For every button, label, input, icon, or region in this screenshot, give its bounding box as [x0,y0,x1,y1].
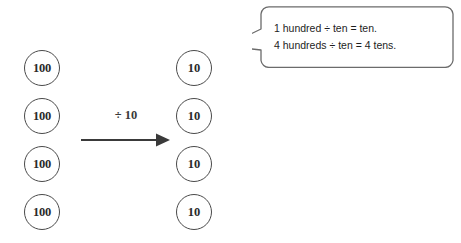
disk-hundred-1: 100 [24,50,60,86]
disk-hundred-3: 100 [24,146,60,182]
disk-hundred-4-value: 100 [33,206,51,219]
disk-hundred-4: 100 [24,194,60,230]
disk-ten-1: 10 [176,50,212,86]
speech-bubble-text: 1 hundred ÷ ten = ten. 4 hundreds ÷ ten … [274,14,446,60]
callout-line-1: 1 hundred ÷ ten = ten. [274,23,446,35]
disk-ten-1-value: 10 [188,62,201,75]
disk-ten-3: 10 [176,146,212,182]
disk-ten-2: 10 [176,98,212,134]
disk-ten-4: 10 [176,194,212,230]
right-arrow-icon [80,128,172,150]
disk-hundred-1-value: 100 [33,62,51,75]
operation-label: ÷ 10 [94,108,158,123]
place-value-division-diagram: 100 100 100 100 ÷ 10 10 10 10 10 1 hundr… [0,0,461,243]
disk-hundred-2: 100 [24,98,60,134]
disk-ten-4-value: 10 [188,206,201,219]
disk-ten-3-value: 10 [188,158,201,171]
division-arrow-group: ÷ 10 [80,108,172,152]
disk-ten-2-value: 10 [188,110,201,123]
disk-hundred-2-value: 100 [33,110,51,123]
speech-bubble: 1 hundred ÷ ten = ten. 4 hundreds ÷ ten … [252,6,454,68]
disk-hundred-3-value: 100 [33,158,51,171]
callout-line-2: 4 hundreds ÷ ten = 4 tens. [274,40,446,52]
